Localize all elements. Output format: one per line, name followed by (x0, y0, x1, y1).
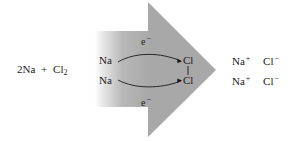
product-row-2: Na+ Cl− (232, 76, 279, 88)
sodium-atom-bottom: Na (99, 75, 112, 86)
reactants-equation: 2Na + Cl2 (17, 64, 67, 76)
chloride-ion: Cl (263, 75, 273, 87)
product-row-1: Na+ Cl− (232, 56, 279, 68)
chloride-ion: Cl (263, 55, 273, 67)
plus-sign: + (41, 63, 47, 75)
sodium-ion: Na (232, 55, 245, 67)
sodium-atom-top: Na (99, 55, 112, 66)
sodium-ion: Na (232, 75, 245, 87)
reactant-sodium: 2Na (17, 63, 35, 75)
electron-label-top: e− (141, 36, 151, 48)
diagram-canvas: 2Na + Cl2 e− e− Na Na Cl Cl Na+ Cl− Na+ … (0, 0, 303, 141)
chlorine-subscript: 2 (63, 68, 67, 77)
chlorine-atom-top: Cl (183, 55, 193, 66)
electron-label-bottom: e− (141, 97, 151, 109)
reactant-chlorine: Cl (53, 63, 63, 75)
chlorine-atom-bottom: Cl (183, 75, 193, 86)
